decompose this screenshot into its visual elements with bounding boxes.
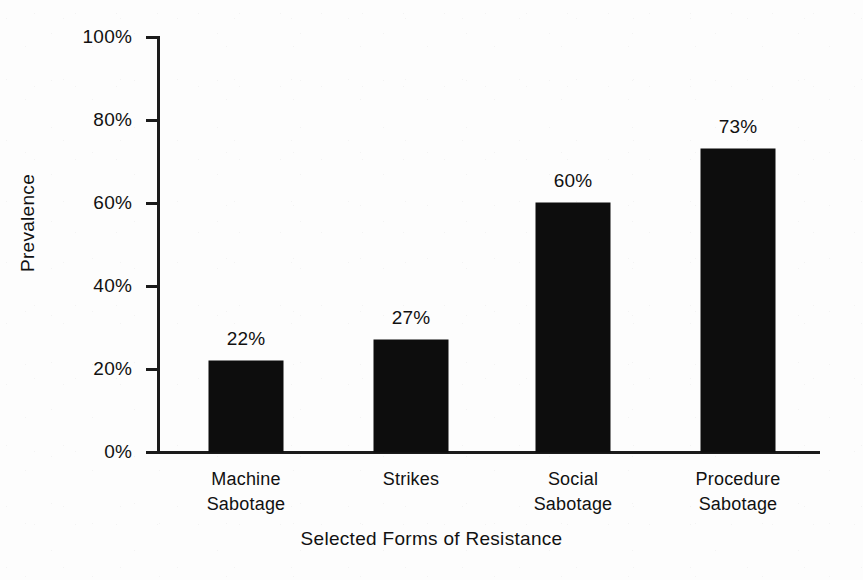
y-axis-tick-label: 0% (32, 441, 132, 463)
bar-value-label: 22% (186, 328, 306, 350)
bar-value-label: 27% (351, 307, 471, 329)
x-axis-category-label: MachineSabotage (156, 467, 336, 517)
bar (536, 203, 610, 452)
y-axis-tick-label: 60% (32, 192, 132, 214)
x-axis-category-label-line: Social (483, 467, 663, 492)
x-axis-category-label-line: Procedure (648, 467, 828, 492)
x-axis-category-label-line: Sabotage (156, 492, 336, 517)
x-axis-category-label-line: Machine (156, 467, 336, 492)
bar-chart-figure: Prevalence 0%20%40%60%80%100% 22%Machine… (0, 0, 863, 580)
x-axis-category-label-line: Strikes (321, 467, 501, 492)
y-axis-tick-label: 100% (32, 26, 132, 48)
bar (209, 361, 283, 452)
y-axis-line (157, 36, 160, 454)
x-axis-category-label: Strikes (321, 467, 501, 492)
x-axis-category-label: ProcedureSabotage (648, 467, 828, 517)
bar-value-label: 60% (513, 170, 633, 192)
y-axis-tick-label: 20% (32, 358, 132, 380)
bar-value-label: 73% (678, 116, 798, 138)
bar (374, 340, 448, 452)
y-axis-tick-label: 40% (32, 275, 132, 297)
x-axis-category-label-line: Sabotage (483, 492, 663, 517)
y-axis-tick-label: 80% (32, 109, 132, 131)
x-axis-category-label-line: Sabotage (648, 492, 828, 517)
bar (701, 149, 775, 452)
x-axis-title: Selected Forms of Resistance (0, 528, 863, 550)
x-axis-category-label: SocialSabotage (483, 467, 663, 517)
